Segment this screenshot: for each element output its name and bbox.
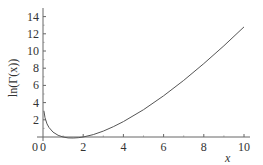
- axes: [37, 8, 250, 141]
- y-tick-label: 6: [33, 78, 39, 92]
- ln-gamma-chart: 024681002468101214 x ln(Γ(x)): [0, 0, 263, 165]
- x-axis-label: x: [224, 151, 231, 165]
- y-axis-label: ln(Γ(x)): [6, 59, 20, 97]
- x-tick-label: 2: [80, 140, 86, 154]
- x-tick-label: 0: [40, 140, 46, 154]
- y-tick-label: 8: [33, 61, 39, 75]
- x-tick-label: 10: [238, 140, 250, 154]
- ticks: 024681002468101214: [27, 10, 250, 154]
- y-tick-label: 12: [27, 27, 39, 41]
- y-tick-label: 2: [33, 113, 39, 127]
- x-tick-label: 8: [201, 140, 207, 154]
- y-tick-label: 0: [32, 140, 38, 154]
- ln-gamma-curve: [44, 27, 244, 138]
- x-tick-label: 6: [161, 140, 167, 154]
- y-tick-label: 14: [27, 10, 39, 24]
- y-tick-label: 10: [27, 44, 39, 58]
- y-tick-label: 4: [33, 96, 39, 110]
- x-tick-label: 4: [120, 140, 126, 154]
